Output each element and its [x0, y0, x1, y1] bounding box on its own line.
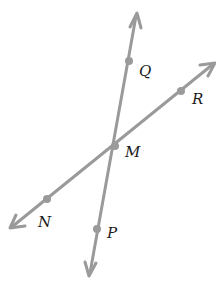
point-n	[43, 195, 51, 203]
point-p	[93, 225, 101, 233]
point-r	[177, 87, 185, 95]
intersecting-lines-diagram: Q R M N P	[0, 0, 216, 295]
point-m	[111, 142, 119, 150]
label-n: N	[37, 213, 52, 231]
label-p: P	[106, 224, 118, 242]
point-q	[125, 57, 133, 65]
label-m: M	[124, 143, 141, 161]
label-r: R	[191, 90, 203, 108]
label-q: Q	[139, 62, 151, 80]
